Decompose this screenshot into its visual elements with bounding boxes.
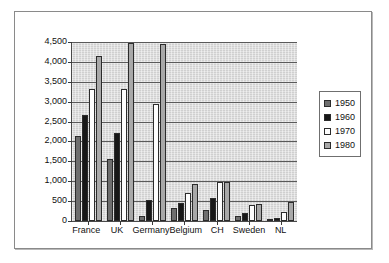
bar (267, 219, 273, 221)
y-axis-tick-label: 2,500 (23, 117, 67, 126)
legend-label: 1960 (335, 113, 355, 122)
bar (139, 216, 145, 221)
legend-item[interactable]: 1980 (324, 138, 355, 152)
bar (75, 136, 81, 221)
y-axis-tick-label: 3,000 (23, 97, 67, 106)
bar (185, 193, 191, 221)
bar-group (136, 42, 168, 221)
y-axis-tick-label: 2,000 (23, 136, 67, 145)
x-axis-tick-label: Germany (132, 225, 169, 235)
bar (114, 133, 120, 221)
legend-item[interactable]: 1960 (324, 110, 355, 124)
bar (107, 159, 113, 221)
legend-label: 1970 (335, 127, 355, 136)
bar (249, 205, 255, 221)
y-axis-tick-label: 3,500 (23, 77, 67, 86)
bar-group (233, 42, 265, 221)
bar (281, 212, 287, 221)
bar-group (72, 42, 104, 221)
bar (203, 210, 209, 221)
y-axis-tick-label: 4,000 (23, 57, 67, 66)
bar (224, 182, 230, 221)
x-axis-tick-label: Belgium (169, 225, 202, 235)
bar (288, 202, 294, 221)
legend-label: 1950 (335, 99, 355, 108)
bar-group (168, 42, 200, 221)
bar (146, 200, 152, 221)
y-axis: 05001,0001,5002,0002,5003,0003,5004,0004… (19, 42, 67, 221)
y-axis-tick (68, 221, 72, 222)
bar (128, 43, 134, 221)
legend-label: 1980 (335, 141, 355, 150)
chart-screenshot: 05001,0001,5002,0002,5003,0003,5004,0004… (0, 0, 389, 263)
legend: 1950196019701980 (319, 91, 361, 157)
bar (242, 213, 248, 221)
chart-frame: 05001,0001,5002,0002,5003,0003,5004,0004… (14, 11, 372, 249)
y-axis-tick-label: 1,000 (23, 176, 67, 185)
bar (153, 104, 159, 221)
x-axis-tick-label: Sweden (233, 225, 266, 235)
legend-item[interactable]: 1950 (324, 96, 355, 110)
bar-group (265, 42, 297, 221)
bar (178, 203, 184, 221)
y-axis-tick-label: 1,500 (23, 156, 67, 165)
bar (256, 204, 262, 221)
legend-swatch-icon (324, 114, 331, 121)
bar (192, 184, 198, 221)
bar (160, 44, 166, 221)
y-axis-tick-label: 4,500 (23, 37, 67, 46)
x-axis-tick-label: NL (265, 225, 296, 235)
bar-group (201, 42, 233, 221)
y-axis-tick-label: 0 (23, 216, 67, 225)
bar (210, 198, 216, 221)
bar (96, 56, 102, 221)
bar (274, 218, 280, 221)
x-axis: FranceUKGermanyBelgiumCHSwedenNL (71, 225, 296, 235)
bar (121, 89, 127, 221)
plot-area (71, 42, 297, 222)
legend-swatch-icon (324, 142, 331, 149)
bar (235, 216, 241, 221)
bar (89, 89, 95, 221)
legend-swatch-icon (324, 128, 331, 135)
bar (217, 182, 223, 221)
bar (82, 115, 88, 221)
x-axis-tick-label: CH (202, 225, 233, 235)
bar (171, 208, 177, 221)
x-axis-tick-label: UK (102, 225, 133, 235)
bar-group (104, 42, 136, 221)
legend-swatch-icon (324, 100, 331, 107)
x-axis-tick-label: France (71, 225, 102, 235)
bar-groups (72, 42, 297, 221)
legend-item[interactable]: 1970 (324, 124, 355, 138)
y-axis-tick-label: 500 (23, 196, 67, 205)
